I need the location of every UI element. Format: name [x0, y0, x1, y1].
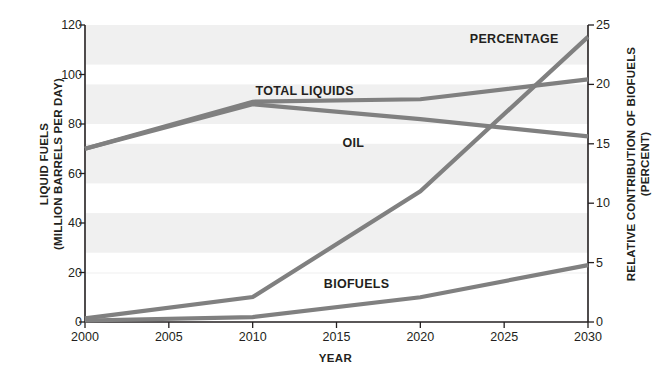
- plot-area: [0, 0, 671, 374]
- background-bands: [86, 25, 588, 274]
- series-label-oil: OIL: [342, 136, 364, 150]
- series-label-biofuels: BIOFUELS: [324, 277, 390, 291]
- chart-figure: LIQUID FUELS (MILLION BARRELS PER DAY) R…: [0, 0, 671, 374]
- background-band: [86, 144, 588, 184]
- background-band: [86, 273, 588, 274]
- background-band: [86, 213, 588, 253]
- series-label-percentage: PERCENTAGE: [470, 32, 559, 46]
- series-label-total-liquids: TOTAL LIQUIDS: [255, 84, 353, 98]
